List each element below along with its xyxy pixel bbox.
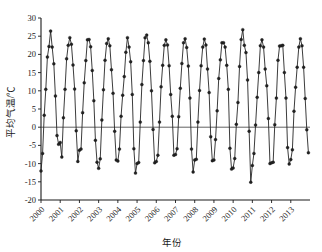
data-point xyxy=(52,62,55,65)
data-point xyxy=(147,41,150,44)
data-point xyxy=(180,62,183,65)
data-point xyxy=(43,114,46,117)
data-point xyxy=(251,164,254,167)
data-point xyxy=(203,38,206,41)
data-point xyxy=(243,44,246,47)
data-point xyxy=(161,64,164,67)
data-point xyxy=(81,111,84,114)
data-point xyxy=(227,88,230,91)
data-point xyxy=(297,46,300,49)
data-point xyxy=(184,37,187,40)
data-point xyxy=(155,160,158,163)
data-point xyxy=(96,161,99,164)
chart-figure: -20-15-10-5051015202530 2000200120022003… xyxy=(0,0,322,252)
data-point xyxy=(126,36,129,39)
data-point xyxy=(259,44,262,47)
data-point xyxy=(121,94,124,97)
data-point xyxy=(40,169,43,172)
data-point xyxy=(145,34,148,37)
data-point xyxy=(134,172,137,175)
data-point xyxy=(120,115,123,118)
data-point xyxy=(289,158,292,161)
data-point xyxy=(174,153,177,156)
data-point xyxy=(131,93,134,96)
data-point xyxy=(158,121,161,124)
data-point xyxy=(88,38,91,41)
data-point xyxy=(185,46,188,49)
data-point xyxy=(73,87,76,90)
data-point xyxy=(249,181,252,184)
data-point xyxy=(187,65,190,68)
data-point xyxy=(238,65,241,68)
data-point xyxy=(168,64,171,67)
data-point xyxy=(67,44,70,47)
data-point xyxy=(129,60,132,63)
data-point xyxy=(252,152,255,155)
data-point xyxy=(110,68,113,71)
data-point xyxy=(54,94,57,97)
data-point xyxy=(156,154,159,157)
data-point xyxy=(164,38,167,41)
data-point xyxy=(116,160,119,163)
data-point xyxy=(281,44,284,47)
data-point xyxy=(108,44,111,47)
data-point xyxy=(291,148,294,151)
data-point xyxy=(257,71,260,74)
data-point xyxy=(240,38,243,41)
data-point xyxy=(76,160,79,163)
data-point xyxy=(124,51,127,54)
data-point xyxy=(60,156,63,159)
data-point xyxy=(232,166,235,169)
data-point xyxy=(283,71,286,74)
data-point xyxy=(224,46,227,49)
data-point xyxy=(196,121,199,124)
y-tick-label: 25 xyxy=(28,31,37,41)
y-tick-label: 20 xyxy=(28,49,37,59)
data-point xyxy=(294,86,297,89)
data-point xyxy=(248,130,251,133)
y-tick-label: 5 xyxy=(32,104,36,114)
data-point xyxy=(272,161,275,164)
data-point xyxy=(83,81,86,84)
data-point xyxy=(91,69,94,72)
data-point xyxy=(200,64,203,67)
data-point xyxy=(198,89,201,92)
data-point xyxy=(107,37,110,40)
data-point xyxy=(169,93,172,96)
data-point xyxy=(102,88,105,91)
data-point xyxy=(139,121,142,124)
data-point xyxy=(246,78,249,81)
data-point xyxy=(195,158,198,161)
data-point xyxy=(241,28,244,31)
y-tick-label: -20 xyxy=(25,195,36,205)
data-point xyxy=(260,38,263,41)
data-point xyxy=(84,59,87,62)
data-point xyxy=(94,139,97,142)
data-point xyxy=(256,96,259,99)
data-point xyxy=(262,46,265,49)
data-point xyxy=(137,161,140,164)
data-point xyxy=(206,67,209,70)
y-tick-label: -5 xyxy=(29,140,36,150)
data-point xyxy=(112,92,115,95)
data-point xyxy=(284,97,287,100)
data-point xyxy=(148,60,151,63)
data-point xyxy=(276,59,279,62)
data-point xyxy=(190,148,193,151)
data-point xyxy=(56,134,59,137)
data-point xyxy=(292,110,295,113)
data-point xyxy=(296,66,299,69)
data-point xyxy=(305,128,308,131)
data-point xyxy=(179,87,182,90)
data-point xyxy=(70,43,73,46)
data-point xyxy=(254,124,257,127)
data-point xyxy=(188,97,191,100)
data-point xyxy=(59,141,62,144)
data-point xyxy=(65,57,68,60)
data-point xyxy=(97,167,100,170)
data-point xyxy=(166,43,169,46)
data-point xyxy=(64,88,67,91)
data-point xyxy=(182,41,185,44)
data-point xyxy=(244,51,247,54)
y-tick-label: 30 xyxy=(28,13,37,23)
